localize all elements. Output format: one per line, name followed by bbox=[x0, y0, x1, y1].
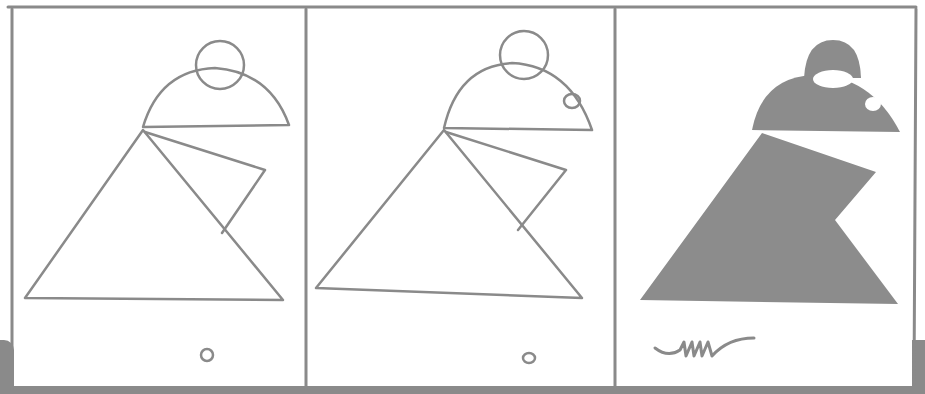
comic-strip bbox=[0, 0, 925, 394]
panel1-body-triangle bbox=[25, 130, 283, 300]
panel2-flap bbox=[446, 132, 566, 230]
panel-1 bbox=[25, 41, 289, 361]
signature-scribble bbox=[655, 338, 754, 356]
panel1-top-circle bbox=[196, 41, 244, 89]
comic-artwork bbox=[0, 0, 925, 394]
panel2-head-dome bbox=[444, 63, 592, 130]
panel1-flap bbox=[145, 132, 265, 233]
panel-2 bbox=[316, 31, 592, 363]
frame-right bbox=[914, 9, 916, 384]
panel1-footer-dot bbox=[201, 349, 213, 361]
panel-3 bbox=[640, 40, 900, 356]
panel2-footer-dot bbox=[523, 353, 535, 363]
panel3-cap-highlight bbox=[813, 70, 853, 88]
panel1-head-dome bbox=[143, 68, 289, 127]
panel3-eye bbox=[865, 97, 881, 111]
panel2-body-triangle bbox=[316, 130, 582, 298]
panel3-body-silhouette bbox=[640, 133, 898, 304]
panel2-top-circle bbox=[500, 31, 548, 79]
